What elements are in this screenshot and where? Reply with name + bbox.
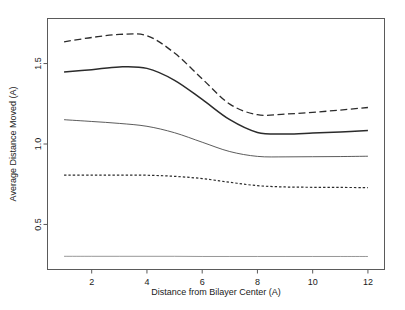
x-tick-label-2: 2 (89, 277, 94, 287)
line-chart: 24681012 0.51.01.5 Distance from Bilayer… (0, 0, 405, 310)
series-1-dashed-top (64, 34, 368, 116)
x-tick-label-4: 4 (144, 277, 149, 287)
y-tick-label-0.5: 0.5 (33, 218, 43, 231)
y-tick-label-1.5: 1.5 (33, 57, 43, 70)
x-axis-title: Distance from Bilayer Center (A) (151, 287, 281, 297)
data-series-group (64, 34, 368, 257)
y-axis-title: Average Distance Moved (A) (8, 87, 18, 202)
x-tick-label-10: 10 (308, 277, 318, 287)
x-tick-label-8: 8 (255, 277, 260, 287)
x-tick-label-12: 12 (363, 277, 373, 287)
series-3-solid-thin (64, 120, 368, 157)
plot-frame (48, 19, 385, 270)
x-tick-label-6: 6 (200, 277, 205, 287)
series-4-dotted (64, 175, 368, 188)
x-axis-ticks (92, 270, 368, 274)
y-tick-label-1: 1.0 (33, 138, 43, 151)
x-axis-tick-labels: 24681012 (89, 277, 373, 287)
series-2-solid-thick (64, 67, 368, 134)
chart-figure: 24681012 0.51.01.5 Distance from Bilayer… (0, 0, 405, 310)
y-axis-tick-labels: 0.51.01.5 (33, 57, 43, 230)
y-axis-ticks (44, 64, 48, 225)
